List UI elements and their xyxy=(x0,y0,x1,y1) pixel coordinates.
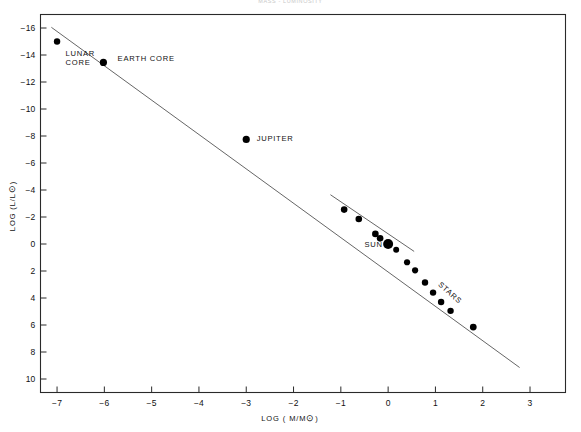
y-tick-label--16: −16 xyxy=(20,23,35,33)
y-axis-tick-labels: −16−14−12−10−8−6−4−20246810 xyxy=(20,23,35,384)
data-point-star-6 xyxy=(404,259,410,265)
faint-header-text: MASS - LUMINOSITY xyxy=(0,0,581,5)
y-tick-label-0: 0 xyxy=(31,239,36,249)
y-tick-label-10: 10 xyxy=(26,374,36,384)
earth-core-label: EARTH CORE xyxy=(118,54,175,63)
y-tick-label-8: 8 xyxy=(31,347,36,357)
data-point-star-5 xyxy=(393,247,399,253)
data-point-jupiter xyxy=(243,136,250,143)
y-tick-label--14: −14 xyxy=(20,50,35,60)
data-point-star-7 xyxy=(412,267,418,273)
data-point-star-12 xyxy=(470,324,477,331)
mass-luminosity-chart: −7−6−5−4−3−2−10123 −16−14−12−10−8−6−4−20… xyxy=(0,0,581,432)
data-point-earth-core xyxy=(100,59,107,66)
data-point-star-1 xyxy=(341,206,348,213)
y-tick-label--6: −6 xyxy=(25,158,35,168)
x-tick-label--5: −5 xyxy=(147,398,157,408)
x-tick-label-3: 3 xyxy=(528,398,533,408)
y-tick-label--8: −8 xyxy=(25,131,35,141)
x-tick-label--1: −1 xyxy=(336,398,346,408)
x-axis-ticks xyxy=(57,387,530,393)
x-axis-title-group: LOG ( M/M⊙) xyxy=(261,413,319,423)
y-axis-ticks xyxy=(41,28,47,379)
x-tick-label--3: −3 xyxy=(241,398,251,408)
data-point-star-10 xyxy=(438,299,444,305)
y-tick-label-6: 6 xyxy=(31,320,36,330)
data-point-star-8 xyxy=(422,279,428,285)
x-tick-label-2: 2 xyxy=(480,398,485,408)
data-points xyxy=(54,38,477,330)
data-point-lunar-core xyxy=(54,38,60,44)
x-tick-label--4: −4 xyxy=(194,398,204,408)
data-point-star-2 xyxy=(356,216,363,223)
x-tick-label--6: −6 xyxy=(99,398,109,408)
figure-container: MASS - LUMINOSITY −7−6−5−4−3−2−10123 −16… xyxy=(0,0,581,432)
lunar-core-label: LUNARCORE xyxy=(66,49,96,67)
trend-lines xyxy=(51,27,519,367)
main-relation-line xyxy=(51,27,519,367)
data-point-star-11 xyxy=(447,308,453,314)
y-axis-title-group: LOG (L/L⊙) xyxy=(7,181,17,231)
jupiter-label: JUPITER xyxy=(257,134,294,143)
sun-label: SUN xyxy=(364,240,382,249)
y-axis-title: LOG (L/L⊙) xyxy=(7,181,17,231)
x-axis-tick-labels: −7−6−5−4−3−2−10123 xyxy=(52,398,533,408)
y-tick-label-4: 4 xyxy=(31,293,36,303)
data-point-sun xyxy=(383,239,393,249)
x-tick-label--2: −2 xyxy=(288,398,298,408)
y-tick-label--4: −4 xyxy=(25,185,35,195)
x-axis-title: LOG ( M/M⊙) xyxy=(261,413,319,423)
y-tick-label--10: −10 xyxy=(20,104,35,114)
plot-frame xyxy=(41,15,566,393)
x-tick-label--7: −7 xyxy=(52,398,62,408)
y-tick-label--12: −12 xyxy=(20,77,35,87)
point-annotations: LUNARCOREEARTH COREJUPITERSUNSTARS xyxy=(66,49,464,305)
y-tick-label-2: 2 xyxy=(31,266,36,276)
x-tick-label-1: 1 xyxy=(433,398,438,408)
data-point-star-9 xyxy=(430,289,436,295)
y-tick-label--2: −2 xyxy=(25,212,35,222)
x-tick-label-0: 0 xyxy=(386,398,391,408)
